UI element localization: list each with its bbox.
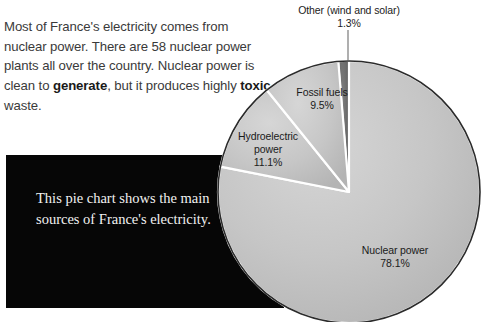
pie-label-hydro: Hydroelectric power 11.1%: [222, 130, 314, 169]
intro-emphasis: toxic: [240, 78, 270, 93]
intro-paragraph: Most of France's electricity comes from …: [4, 17, 272, 115]
intro-text: , but it produces highly: [107, 78, 240, 93]
pie-label-fossil: Fossil fuels 9.5%: [280, 86, 364, 112]
pie-label-hydro-name-1: Hydroelectric: [238, 130, 298, 142]
pie-slice: [338, 61, 349, 192]
pie-label-nuclear-pct: 78.1%: [348, 257, 442, 270]
caption-box: This pie chart shows the main sources of…: [6, 155, 284, 308]
pie-label-other-pct: 1.3%: [284, 17, 414, 30]
pie-label-nuclear: Nuclear power 78.1%: [348, 244, 442, 270]
pie-label-other-name: Other (wind and solar): [298, 4, 400, 16]
pie-label-other: Other (wind and solar) 1.3%: [284, 4, 414, 30]
caption-text: This pie chart shows the main sources of…: [36, 188, 256, 229]
intro-emphasis: generate: [53, 78, 107, 93]
pie-label-fossil-name: Fossil fuels: [296, 86, 347, 98]
pie-label-fossil-pct: 9.5%: [280, 99, 364, 112]
pie-label-hydro-pct: 11.1%: [222, 156, 314, 169]
pie-label-hydro-name-2: power: [222, 143, 314, 156]
intro-text: waste.: [4, 98, 42, 113]
page-root: Most of France's electricity comes from …: [0, 0, 484, 322]
pie-label-nuclear-name: Nuclear power: [362, 244, 428, 256]
